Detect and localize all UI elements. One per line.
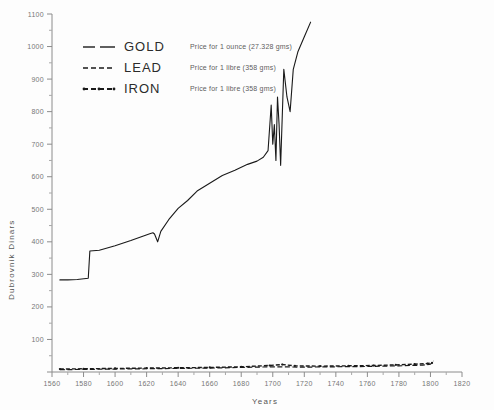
series-marker-iron	[114, 367, 116, 369]
legend-swatch-iron	[82, 83, 118, 95]
x-tick-label: 1780	[391, 380, 408, 387]
x-tick-label: 1720	[296, 380, 313, 387]
x-tick-label: 1560	[44, 380, 61, 387]
series-marker-iron	[281, 363, 283, 365]
legend-desc-iron: Price for 1 libre (358 gms)	[190, 85, 276, 92]
x-tick-label: 1640	[170, 380, 187, 387]
y-tick-label: 1100	[28, 11, 44, 18]
series-marker-iron	[426, 362, 428, 364]
series-marker-iron	[431, 362, 433, 364]
series-marker-iron	[319, 365, 321, 367]
legend-label-iron: IRON	[118, 81, 190, 96]
x-tick-label: 1660	[201, 380, 218, 387]
series-marker-iron	[82, 368, 84, 370]
legend-label-lead: LEAD	[118, 60, 190, 75]
series-marker-iron	[373, 364, 375, 366]
y-tick-label: 300	[31, 271, 44, 278]
x-axis-title: Years	[252, 397, 278, 406]
legend-desc-lead: Price for 1 libre (358 gms)	[190, 64, 276, 71]
y-tick-label: 800	[31, 108, 44, 115]
legend-swatch-lead	[82, 62, 118, 74]
series-marker-iron	[59, 368, 61, 370]
legend-item-lead: LEAD Price for 1 libre (358 gms)	[82, 57, 412, 78]
series-marker-iron	[294, 365, 296, 367]
series-marker-iron	[209, 366, 211, 368]
y-tick-label: 500	[31, 206, 44, 213]
legend-item-iron: IRON Price for 1 libre (358 gms)	[82, 78, 412, 99]
series-marker-iron	[414, 363, 416, 365]
x-tick-label: 1800	[422, 380, 439, 387]
series-marker-iron	[395, 364, 397, 366]
legend-item-gold: GOLD Price for 1 ounce (27.328 gms)	[82, 36, 412, 57]
y-tick-label: 700	[31, 141, 44, 148]
series-marker-iron	[240, 366, 242, 368]
y-tick-label: 200	[31, 303, 44, 310]
x-tick-label: 1760	[359, 380, 376, 387]
x-tick-label: 1580	[75, 380, 92, 387]
y-tick-label: 600	[31, 173, 44, 180]
x-tick-label: 1740	[327, 380, 344, 387]
y-tick-label: 1000	[27, 43, 44, 50]
x-axis: 1560158016001620164016601680170017201740…	[44, 372, 471, 387]
legend-swatch-gold	[82, 41, 118, 53]
chart-container: 10020030040050060070080090010001100 1560…	[0, 0, 494, 410]
y-tick-label: 400	[31, 238, 44, 245]
x-tick-label: 1680	[233, 380, 250, 387]
legend-label-gold: GOLD	[118, 39, 190, 54]
series-marker-iron	[269, 364, 271, 366]
y-tick-label: 900	[31, 76, 44, 83]
chart-legend: GOLD Price for 1 ounce (27.328 gms) LEAD…	[82, 36, 412, 99]
y-tick-label: 100	[31, 336, 44, 343]
series-marker-iron	[146, 367, 148, 369]
x-tick-label: 1600	[107, 380, 124, 387]
series-marker-iron	[177, 367, 179, 369]
x-tick-label: 1620	[138, 380, 155, 387]
y-axis: 10020030040050060070080090010001100	[27, 11, 52, 373]
x-tick-label: 1700	[264, 380, 281, 387]
legend-desc-gold: Price for 1 ounce (27.328 gms)	[190, 43, 292, 50]
y-axis-title: Dubrovnik Dinars	[7, 219, 16, 300]
series-marker-iron	[347, 365, 349, 367]
x-tick-label: 1820	[454, 380, 471, 387]
